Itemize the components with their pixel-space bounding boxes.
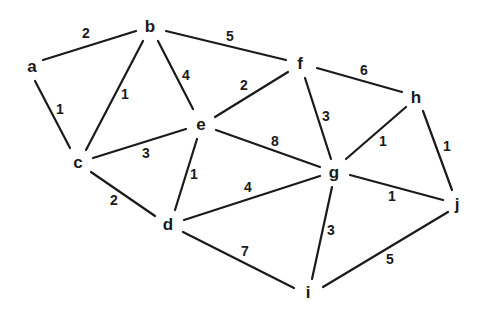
edge-weight-e-f: 2 (240, 77, 248, 93)
edge-e-g (216, 130, 320, 167)
edge-e-f (215, 72, 288, 117)
node-a: a (27, 57, 37, 76)
edge-h-g (346, 107, 406, 159)
edge-weight-b-e: 4 (182, 67, 190, 83)
edge-weight-d-g: 4 (244, 179, 252, 195)
edge-weight-h-j: 1 (443, 138, 451, 154)
node-d: d (163, 215, 173, 234)
edge-c-e (93, 129, 186, 158)
edge-weight-e-d: 1 (190, 166, 198, 182)
edge-weight-d-i: 7 (241, 243, 249, 259)
node-j: j (454, 195, 460, 214)
edge-weight-b-f: 5 (226, 28, 234, 44)
node-g: g (329, 163, 339, 182)
edge-weights-layer: 2114532128631114375 (56, 25, 451, 267)
node-c: c (73, 153, 82, 172)
edge-weight-e-g: 8 (271, 133, 279, 149)
edge-a-c (35, 81, 70, 148)
weighted-graph-diagram: 2114532128631114375 abcdefghij (0, 0, 482, 313)
edge-weight-h-g: 1 (379, 133, 387, 149)
edge-weight-b-c: 1 (121, 86, 129, 102)
edge-weight-f-g: 3 (322, 108, 330, 124)
node-f: f (297, 54, 303, 73)
edge-weight-c-e: 3 (142, 145, 150, 161)
edge-weight-c-d: 2 (110, 192, 118, 208)
edge-weight-f-h: 6 (360, 62, 368, 78)
node-b: b (145, 17, 155, 36)
node-e: e (196, 115, 205, 134)
edge-b-c (86, 41, 143, 150)
node-h: h (411, 88, 421, 107)
edge-d-i (183, 232, 294, 288)
edge-j-i (323, 212, 448, 287)
edge-c-d (91, 172, 155, 216)
edge-weight-g-j: 1 (388, 188, 396, 204)
node-i: i (306, 283, 311, 302)
edge-weight-a-c: 1 (56, 101, 64, 117)
edge-g-j (350, 175, 443, 200)
edge-weight-a-b: 2 (82, 25, 90, 41)
edge-d-g (184, 176, 320, 220)
edge-weight-j-i: 5 (386, 251, 394, 267)
edge-weight-g-i: 3 (327, 222, 335, 238)
